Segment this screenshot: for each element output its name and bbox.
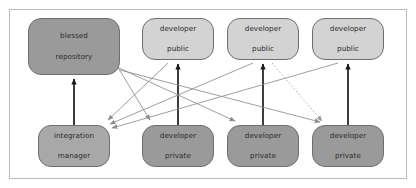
- edge-developer-public-1-to-integration-manager: [108, 63, 168, 120]
- node-developer-public-3-line1: developer: [328, 24, 368, 34]
- node-developer-private-1[interactable]: developer private: [142, 125, 214, 167]
- node-developer-public-2-line2: public: [243, 44, 283, 54]
- node-developer-public-1-line2: public: [158, 44, 198, 54]
- node-developer-public-1[interactable]: developer public: [142, 18, 214, 60]
- node-developer-private-3-line1: developer: [328, 131, 368, 141]
- node-developer-private-3[interactable]: developer private: [312, 125, 384, 167]
- node-developer-private-2[interactable]: developer private: [227, 125, 299, 167]
- node-developer-private-1-line2: private: [158, 151, 198, 161]
- node-developer-public-3[interactable]: developer public: [312, 18, 384, 60]
- node-developer-private-1-line1: developer: [158, 131, 198, 141]
- node-developer-public-2[interactable]: developer public: [227, 18, 299, 60]
- edge-developer-public-2-to-developer-private-3: [272, 63, 322, 121]
- node-developer-private-2-line2: private: [243, 151, 283, 161]
- node-developer-private-3-line2: private: [328, 151, 368, 161]
- node-developer-public-2-line1: developer: [243, 24, 283, 34]
- node-developer-public-1-line1: developer: [158, 24, 198, 34]
- node-developer-public-3-line2: public: [328, 44, 368, 54]
- node-integration-manager-line1: integration: [52, 131, 96, 141]
- node-integration-manager[interactable]: integration manager: [38, 125, 110, 167]
- node-blessed-repository-line2: repository: [54, 52, 95, 62]
- node-developer-private-2-line1: developer: [243, 131, 283, 141]
- edge-blessed-repository-to-developer-private-1: [117, 66, 150, 120]
- diagram-figure: blessed repository developer public deve…: [0, 0, 416, 188]
- node-integration-manager-line2: manager: [52, 151, 96, 161]
- node-blessed-repository-line1: blessed: [54, 31, 95, 41]
- node-blessed-repository[interactable]: blessed repository: [28, 18, 120, 75]
